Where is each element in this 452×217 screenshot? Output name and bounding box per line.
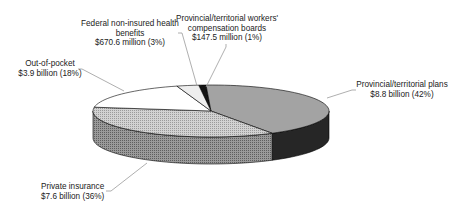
label-oop-line1: Out-of-pocket <box>17 59 83 69</box>
label-federal-line1: Federal non-insured health <box>78 19 182 29</box>
leader-line-oop <box>78 69 124 91</box>
label-federal-line3: $670.6 million (3%) <box>78 38 182 48</box>
label-private-line2: $7.6 billion (36%) <box>41 192 111 202</box>
leader-line-private <box>106 163 147 191</box>
label-provincial-line1: Provincial/territorial plans <box>344 80 452 90</box>
label-federal: Federal non-insured health benefits $670… <box>78 19 182 48</box>
label-private-line1: Private insurance <box>41 182 111 192</box>
leader-line-workers <box>206 44 226 87</box>
label-private-insurance: Private insurance $7.6 billion (36%) <box>41 182 111 201</box>
label-oop-line2: $3.9 billion (18%) <box>17 69 83 79</box>
label-provincial-line2: $8.8 billion (42%) <box>344 90 452 100</box>
label-federal-line2: benefits <box>78 29 182 39</box>
label-out-of-pocket: Out-of-pocket $3.9 billion (18%) <box>17 59 83 78</box>
label-provincial-plans: Provincial/territorial plans $8.8 billio… <box>344 80 452 99</box>
pie-top-face <box>93 85 329 137</box>
